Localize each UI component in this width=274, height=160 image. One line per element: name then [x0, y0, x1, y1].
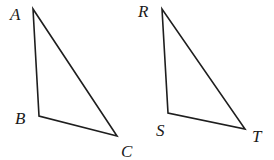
vertex-label-c: C — [121, 142, 133, 160]
triangle-rst: R S T — [137, 2, 263, 146]
vertex-label-r: R — [137, 2, 149, 21]
vertex-label-a: A — [9, 5, 21, 24]
vertex-label-s: S — [156, 121, 165, 140]
vertex-label-b: B — [15, 109, 26, 128]
triangle-abc: A B C — [9, 5, 133, 160]
triangle-abc-shape — [33, 9, 117, 136]
triangle-rst-shape — [162, 9, 245, 129]
diagram-canvas: A B C R S T — [0, 0, 274, 160]
vertex-label-t: T — [252, 127, 263, 146]
